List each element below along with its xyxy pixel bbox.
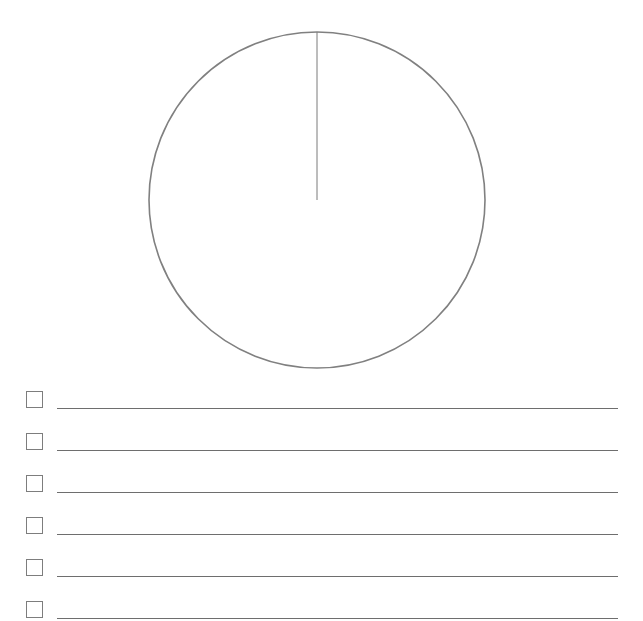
clipped-title-text <box>0 0 643 6</box>
legend-label-4 <box>57 517 618 533</box>
legend-rule-6 <box>57 618 618 619</box>
legend-checkbox-4[interactable] <box>26 517 43 534</box>
legend-label-2 <box>57 433 618 449</box>
legend-label-6 <box>57 601 618 617</box>
legend-rule-4 <box>57 534 618 535</box>
legend-checkbox-1[interactable] <box>26 391 43 408</box>
legend-checkbox-2[interactable] <box>26 433 43 450</box>
legend-label-5 <box>57 559 618 575</box>
legend-label-1 <box>57 391 618 407</box>
legend <box>0 388 643 621</box>
legend-rule-5 <box>57 576 618 577</box>
legend-label-3 <box>57 475 618 491</box>
legend-row[interactable] <box>0 472 643 496</box>
legend-row[interactable] <box>0 430 643 454</box>
legend-checkbox-6[interactable] <box>26 601 43 618</box>
legend-rule-3 <box>57 492 618 493</box>
legend-row[interactable] <box>0 514 643 538</box>
page-root <box>0 0 643 621</box>
legend-row[interactable] <box>0 388 643 412</box>
legend-checkbox-5[interactable] <box>26 559 43 576</box>
legend-row[interactable] <box>0 556 643 580</box>
pie-chart[interactable] <box>144 28 490 372</box>
legend-row[interactable] <box>0 598 643 621</box>
legend-checkbox-3[interactable] <box>26 475 43 492</box>
legend-rule-2 <box>57 450 618 451</box>
legend-rule-1 <box>57 408 618 409</box>
